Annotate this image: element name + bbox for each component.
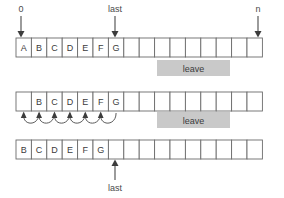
shift-arcs	[21, 112, 116, 124]
array-cell	[201, 140, 216, 159]
array-cell-value: C	[51, 97, 58, 107]
array-cell-value: G	[113, 97, 120, 107]
array-cell	[185, 38, 200, 57]
leave-annotation-top: leave	[157, 60, 230, 76]
array-cell-value: C	[51, 43, 58, 53]
array-cell-value: F	[83, 145, 89, 155]
array-cell	[124, 38, 139, 57]
array-cell	[139, 92, 154, 111]
array-cell	[247, 92, 262, 111]
array-cell-value: G	[97, 145, 104, 155]
array-row-final: BCDEFG	[16, 140, 262, 159]
shift-arc	[55, 113, 70, 123]
array-cell-value: D	[67, 43, 74, 53]
array-cell-value: D	[51, 145, 58, 155]
pointer-arrowhead-zero	[18, 31, 25, 38]
array-cell-value: B	[36, 97, 42, 107]
array-cell	[232, 140, 247, 159]
array-cell	[108, 140, 123, 159]
shift-arc-arrowhead	[21, 112, 27, 119]
pointer-label-n: n	[255, 4, 260, 14]
pointer-arrowhead-last	[112, 31, 119, 38]
array-cell-value: E	[67, 145, 73, 155]
shift-arc-arrowhead	[67, 112, 73, 119]
array-cell-value: A	[21, 43, 27, 53]
array-cell	[216, 140, 231, 159]
leave-annotation-bottom: leave	[157, 112, 230, 128]
array-cell	[124, 140, 139, 159]
shift-arc	[85, 113, 100, 123]
array-cell-value: D	[67, 97, 74, 107]
row3-pointers: last	[108, 160, 123, 194]
array-cell-value: G	[113, 43, 120, 53]
array-cell	[16, 92, 31, 111]
shift-arc-arrowhead	[82, 112, 88, 119]
array-cell	[124, 92, 139, 111]
pointer-label-last: last	[108, 4, 123, 14]
array-cell	[247, 38, 262, 57]
array-cell-value: C	[36, 145, 43, 155]
array-cell-value: F	[98, 97, 104, 107]
array-cell	[139, 38, 154, 57]
pointer-arrowhead-n	[255, 31, 262, 38]
array-cell-value: E	[82, 97, 88, 107]
pointer-label-zero: 0	[18, 4, 23, 14]
shift-arc	[70, 113, 85, 123]
array-cell	[216, 92, 231, 111]
shift-arc	[24, 113, 39, 123]
array-cell-value: E	[82, 43, 88, 53]
array-cell	[232, 38, 247, 57]
array-row-shifting: BCDEFG	[16, 92, 262, 111]
array-row-initial: ABCDEFG	[16, 38, 262, 57]
array-cell	[170, 92, 185, 111]
shift-arc	[101, 113, 116, 123]
array-cell	[170, 140, 185, 159]
array-cell	[139, 140, 154, 159]
array-cell	[155, 92, 170, 111]
array-cell	[216, 38, 231, 57]
array-cell	[185, 140, 200, 159]
array-cell	[247, 140, 262, 159]
array-cell-value: B	[21, 145, 27, 155]
shift-arc-arrowhead	[36, 112, 42, 119]
leave-label-bottom: leave	[183, 116, 205, 126]
array-cell	[170, 38, 185, 57]
array-cell	[155, 38, 170, 57]
pointer-arrowhead-last-final	[112, 160, 119, 167]
row1-pointers: 0 last n	[18, 4, 262, 38]
array-cell-value: F	[98, 43, 104, 53]
array-cell	[201, 92, 216, 111]
shift-arc	[39, 113, 54, 123]
array-cell	[232, 92, 247, 111]
leave-label-top: leave	[183, 64, 205, 74]
array-cell-value: B	[36, 43, 42, 53]
array-shift-diagram: 0 last n ABCDEFG leave BCDEFG leave BCDE	[0, 0, 284, 198]
shift-arc-arrowhead	[52, 112, 58, 119]
shift-arc-arrowhead	[98, 112, 104, 119]
array-cell	[201, 38, 216, 57]
diagram-canvas: 0 last n ABCDEFG leave BCDEFG leave BCDE	[0, 0, 284, 198]
array-cell	[155, 140, 170, 159]
array-cell	[185, 92, 200, 111]
pointer-label-last-final: last	[108, 183, 123, 193]
